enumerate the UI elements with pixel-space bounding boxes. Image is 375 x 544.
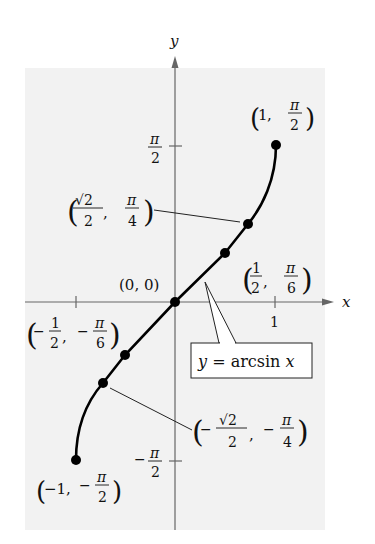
x-tick-label-1: 1 <box>270 314 279 330</box>
point-1-pi2 <box>271 140 281 150</box>
svg-text:1: 1 <box>252 260 261 276</box>
svg-text:,: , <box>249 426 254 444</box>
svg-text:π: π <box>289 97 300 113</box>
svg-text:6: 6 <box>96 335 105 351</box>
svg-text:1: 1 <box>51 315 60 331</box>
point-neghalf-negpi6 <box>120 350 130 360</box>
y-axis-arrow-icon <box>172 56 179 68</box>
svg-text:2: 2 <box>251 280 260 296</box>
point-negsqrt2-negpi4 <box>98 378 108 388</box>
svg-text:−: − <box>77 323 89 339</box>
svg-text:−1: −1 <box>44 480 66 498</box>
svg-text:): ) <box>109 317 121 352</box>
svg-text:,: , <box>62 328 67 346</box>
svg-text:2: 2 <box>151 464 160 480</box>
svg-text:√2: √2 <box>219 412 237 428</box>
svg-text:π: π <box>94 315 105 331</box>
point-origin <box>170 297 180 307</box>
svg-text:,: , <box>103 204 108 222</box>
svg-text:−: − <box>79 477 91 493</box>
function-label-eq: = arcsin <box>207 352 285 371</box>
x-axis-label: x <box>342 293 351 311</box>
svg-text:2: 2 <box>98 489 107 505</box>
svg-text:4: 4 <box>128 213 137 229</box>
svg-text:π: π <box>149 445 160 461</box>
svg-text:,: , <box>263 273 268 291</box>
svg-text:): ) <box>112 476 122 506</box>
svg-text:): ) <box>301 262 313 297</box>
function-label-x: x <box>286 352 295 371</box>
point-sqrt2-pi4 <box>243 219 253 229</box>
svg-text:): ) <box>143 194 155 229</box>
svg-text:√2: √2 <box>75 192 93 208</box>
x-axis-arrow-icon <box>322 299 334 306</box>
svg-text:π: π <box>281 412 292 428</box>
svg-text:−: − <box>263 421 275 437</box>
svg-text:4: 4 <box>283 434 292 450</box>
y-axis-label: y <box>169 32 179 50</box>
point-neg1-negpi2 <box>71 455 81 465</box>
svg-text:2: 2 <box>228 434 237 450</box>
svg-text:2: 2 <box>151 150 160 166</box>
svg-text:2: 2 <box>84 213 93 229</box>
svg-text:π: π <box>126 192 137 208</box>
svg-text:): ) <box>297 414 309 449</box>
label-origin: (0, 0) <box>119 276 159 294</box>
svg-text:,: , <box>267 106 272 124</box>
svg-text:−: − <box>33 323 45 339</box>
svg-text:): ) <box>305 103 315 133</box>
arcsin-graph: x y 1 π 2 − π 2 ( <box>0 0 375 544</box>
svg-text:6: 6 <box>287 280 296 296</box>
svg-text:π: π <box>149 131 160 147</box>
svg-text:π: π <box>96 469 107 485</box>
svg-text:π: π <box>285 260 296 276</box>
svg-text:,: , <box>66 480 71 498</box>
svg-text:2: 2 <box>50 335 59 351</box>
svg-text:−: − <box>134 451 146 467</box>
chart-canvas: x y 1 π 2 − π 2 ( <box>0 0 375 544</box>
svg-text:y = arcsin x: y = arcsin x <box>197 352 295 371</box>
svg-text:2: 2 <box>290 117 299 133</box>
svg-text:−: − <box>200 421 212 437</box>
point-half-pi6 <box>220 248 230 258</box>
